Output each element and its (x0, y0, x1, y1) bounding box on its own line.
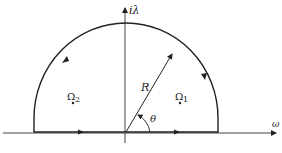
contour-diagram: iλ ω R θ Ω 2 Ω 1 (0, 0, 282, 153)
arrow-baseline-left (78, 130, 84, 135)
theta-label: θ (150, 113, 156, 124)
omega2-point (72, 102, 74, 104)
radius-label: R (140, 81, 149, 94)
omega1-point (179, 102, 181, 104)
semicircle-contour (34, 23, 218, 132)
theta-arc (138, 115, 150, 132)
arrow-baseline-right (174, 130, 180, 135)
omega1-subscript: 1 (183, 95, 188, 104)
omega2-subscript: 2 (75, 95, 80, 104)
omega-label: ω (272, 119, 280, 129)
arrow-arc-left (62, 56, 69, 63)
i-lambda-label: iλ (129, 4, 140, 17)
arrow-arc-right (201, 73, 207, 80)
